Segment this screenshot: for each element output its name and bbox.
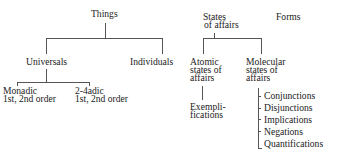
node-polyadic-line2: 1st, 2nd order (75, 95, 128, 103)
node-disjunctions: Disjunctions (264, 104, 313, 112)
tick-conjunctions (258, 96, 261, 97)
node-conjunctions: Conjunctions (264, 92, 315, 100)
node-universals: Universals (26, 58, 67, 66)
node-molecular-line3: affairs (246, 74, 285, 82)
node-monadic-line2: 1st, 2nd order (3, 95, 56, 103)
edge-things-stem (105, 23, 106, 38)
tick-disjunctions (258, 108, 261, 109)
edge-things-individuals (162, 38, 163, 54)
edge-states-atomic (203, 38, 204, 54)
node-forms: Forms (276, 13, 301, 21)
node-negations: Negations (264, 128, 303, 136)
tick-negations (258, 131, 261, 132)
node-monadic: Monadic 1st, 2nd order (3, 87, 56, 103)
node-individuals: Individuals (130, 58, 173, 66)
edge-atomic-exemplifications (202, 86, 203, 100)
node-quantifications: Quantifications (264, 140, 323, 148)
tick-quantifications (258, 148, 262, 149)
tick-implications (258, 119, 261, 120)
node-implications: Implications (264, 116, 312, 124)
edge-states-molecular (261, 38, 262, 54)
node-states-line2: of affairs (204, 21, 239, 29)
node-exemplifications-line2: fications (190, 111, 226, 119)
node-polyadic: 2-4adic 1st, 2nd order (75, 87, 128, 103)
edge-universals-stem (46, 69, 47, 82)
edge-things-universals (46, 38, 47, 54)
node-atomic: Atomic states of affairs (190, 58, 222, 82)
node-atomic-line3: affairs (190, 74, 222, 82)
node-exemplifications: Exempli- fications (190, 103, 226, 119)
node-molecular: Molecular states of affairs (246, 58, 285, 82)
node-things: Things (91, 10, 118, 18)
node-states-of-affairs: States of affairs (203, 13, 239, 29)
edge-states-bar (203, 38, 262, 39)
edge-universals-bar (17, 82, 90, 83)
edge-things-bar (46, 38, 163, 39)
